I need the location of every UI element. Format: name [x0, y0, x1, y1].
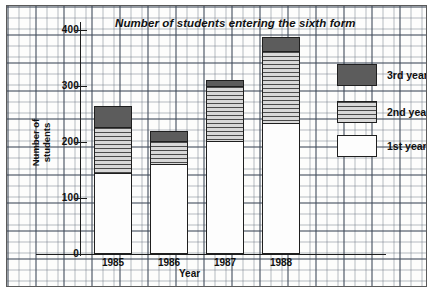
chart-plot-area: Number of students entering the sixth fo… — [7, 6, 427, 287]
x-axis-line — [36, 254, 386, 255]
y-tick-mark-0 — [75, 254, 87, 255]
legend-swatch-3rd-year — [337, 64, 377, 86]
y-tick-label-100: 100 — [33, 193, 79, 203]
legend-swatch-2nd-year — [337, 101, 377, 123]
legend-label-2nd-year: 2nd year sixth — [387, 106, 427, 118]
legend-label-1st-year: 1st year sixth — [387, 140, 427, 152]
chart-title: Number of students entering the sixth fo… — [115, 17, 356, 29]
y-tick-mark-300 — [75, 86, 87, 87]
bar-1986 — [150, 131, 188, 254]
bar-1987 — [206, 80, 244, 254]
bar-1988-seg-1st-year — [262, 123, 300, 254]
bar-1985-seg-1st-year — [94, 173, 132, 254]
legend-item-2nd-year: 2nd year sixth — [337, 101, 427, 123]
legend-item-1st-year: 1st year sixth — [337, 135, 427, 157]
bar-1986-seg-2nd-year — [150, 141, 188, 164]
x-tick-label-1987: 1987 — [203, 257, 247, 268]
y-axis-line — [80, 22, 81, 256]
y-tick-label-0: 0 — [33, 249, 79, 259]
legend-label-3rd-year: 3rd year sixth — [387, 69, 427, 81]
y-tick-label-400: 400 — [33, 25, 79, 35]
bar-1985-seg-2nd-year — [94, 127, 132, 173]
x-tick-label-1985: 1985 — [91, 257, 135, 268]
bar-1985-seg-3rd-year — [94, 106, 132, 127]
x-tick-label-1988: 1988 — [259, 257, 303, 268]
bar-1988-seg-3rd-year — [262, 37, 300, 51]
screenshot-root: Number of students entering the sixth fo… — [0, 0, 433, 297]
y-tick-mark-200 — [75, 142, 87, 143]
bar-1987-seg-2nd-year — [206, 86, 244, 141]
bar-1988-seg-2nd-year — [262, 51, 300, 123]
y-tick-mark-400 — [75, 30, 87, 31]
legend-swatch-1st-year — [337, 135, 377, 157]
bar-1987-seg-1st-year — [206, 141, 244, 254]
y-tick-label-300: 300 — [33, 81, 79, 91]
x-axis-title: Year — [179, 268, 200, 279]
y-tick-label-200: 200 — [33, 137, 79, 147]
bar-1986-seg-1st-year — [150, 164, 188, 254]
y-tick-mark-100 — [75, 198, 87, 199]
bar-1985 — [94, 106, 132, 254]
bar-1988 — [262, 37, 300, 254]
x-tick-label-1986: 1986 — [147, 257, 191, 268]
graph-paper-sheet: Number of students entering the sixth fo… — [6, 5, 427, 287]
legend-item-3rd-year: 3rd year sixth — [337, 64, 427, 86]
bar-1986-seg-3rd-year — [150, 131, 188, 141]
